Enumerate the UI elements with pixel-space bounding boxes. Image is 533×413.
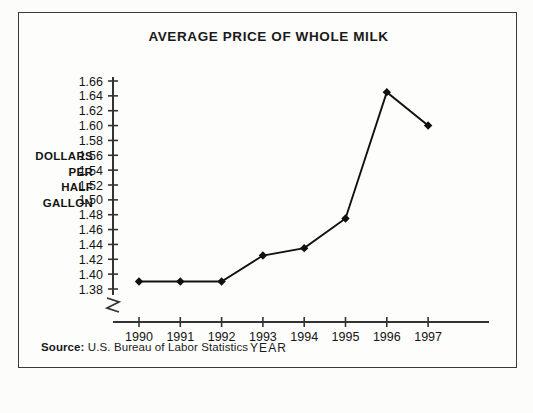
- y-axis-tick-label: 1.62: [79, 104, 103, 118]
- y-axis-tick-label: 1.64: [79, 89, 103, 103]
- y-axis-tick-label: 1.40: [79, 268, 103, 282]
- y-axis-tick-label: 1.56: [79, 149, 103, 163]
- y-axis-tick-label: 1.38: [79, 283, 103, 297]
- chart-page: AVERAGE PRICE OF WHOLE MILK DOLLARS PER …: [0, 0, 533, 413]
- y-axis-tick-label: 1.50: [79, 193, 103, 207]
- y-axis-tick-label: 1.54: [79, 164, 103, 178]
- axis-break-icon: [107, 298, 119, 312]
- source-text: U.S. Bureau of Labor Statistics: [88, 341, 248, 353]
- figure-border: AVERAGE PRICE OF WHOLE MILK DOLLARS PER …: [18, 12, 517, 368]
- y-axis-tick-label: 1.46: [79, 223, 103, 237]
- y-axis-tick-label: 1.52: [79, 179, 103, 193]
- data-line: [139, 92, 428, 281]
- data-point-marker: [176, 277, 184, 285]
- y-axis-tick-label: 1.60: [79, 119, 103, 133]
- y-axis-tick-label: 1.48: [79, 208, 103, 222]
- y-axis-tick-label: 1.44: [79, 238, 103, 252]
- source-note: Source: U.S. Bureau of Labor Statistics: [41, 341, 248, 353]
- data-point-marker: [135, 277, 143, 285]
- y-axis-tick-label: 1.66: [79, 75, 103, 89]
- y-axis-tick-label: 1.58: [79, 134, 103, 148]
- line-chart-plot: 1.381.401.421.441.461.481.501.521.541.56…: [19, 13, 518, 369]
- source-label: Source:: [41, 341, 85, 353]
- data-point-markers: [135, 88, 433, 286]
- y-axis-tick-label: 1.42: [79, 253, 103, 267]
